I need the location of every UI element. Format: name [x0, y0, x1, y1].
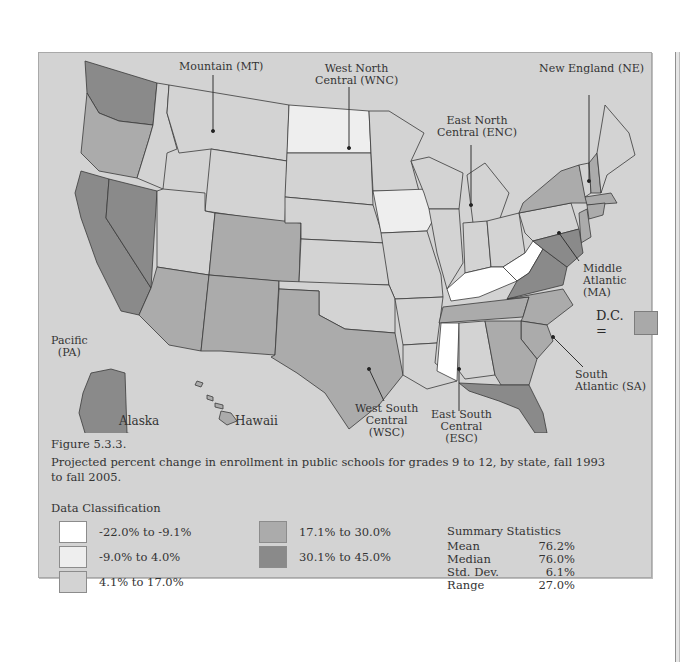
legend-item-5: 30.1% to 45.0%: [259, 546, 391, 568]
dc-label: D.C. =: [596, 308, 630, 338]
legend-swatch-4: [259, 521, 287, 543]
legend-swatch-2: [59, 546, 87, 568]
legend-item-3: 4.1% to 17.0%: [59, 571, 184, 593]
legend-swatch-3: [59, 571, 87, 593]
label-pa-line2: (PA): [51, 347, 88, 359]
dc-swatch: [634, 311, 658, 335]
label-ma-line3: (MA): [583, 287, 626, 299]
state-mn: [369, 111, 424, 191]
scrollbar-edge: [675, 52, 680, 662]
dc-indicator: D.C. =: [596, 308, 658, 338]
state-ct: [587, 203, 605, 219]
state-me: [597, 105, 635, 193]
label-ma: Middle Atlantic (MA): [583, 263, 626, 299]
summary-statistics: Summary Statistics Mean76.2% Median76.0%…: [447, 524, 575, 592]
label-pacific: Pacific (PA): [51, 335, 88, 359]
legend-label-3: 4.1% to 17.0%: [99, 575, 184, 589]
stat-row-range: Range27.0%: [447, 579, 575, 592]
legend-item-2: -9.0% to 4.0%: [59, 546, 180, 568]
legend-label-2: -9.0% to 4.0%: [99, 550, 180, 564]
legend-swatch-1: [59, 521, 87, 543]
label-mountain: Mountain (MT): [179, 61, 263, 73]
label-sa-line2: Atlantic (SA): [575, 381, 646, 393]
label-esc-line3: (ESC): [431, 433, 492, 445]
label-ne: New England (NE): [539, 63, 644, 75]
label-wsc-line3: (WSC): [355, 427, 418, 439]
figure-panel: Mountain (MT) West North Central (WNC) E…: [38, 52, 652, 578]
label-esc: East South Central (ESC): [431, 409, 492, 445]
state-in: [463, 221, 491, 273]
state-ks: [299, 239, 389, 285]
state-sd: [285, 153, 373, 205]
summary-title: Summary Statistics: [447, 524, 575, 538]
state-ar: [395, 297, 443, 345]
label-enc-line2: Central (ENC): [437, 127, 517, 139]
legend-item-4: 17.1% to 30.0%: [259, 521, 391, 543]
label-hawaii: Hawaii: [235, 415, 278, 427]
label-wsc: West South Central (WSC): [355, 403, 418, 439]
label-sa: South Atlantic (SA): [575, 369, 646, 393]
stat-label: Range: [447, 579, 484, 592]
state-mt: [167, 85, 289, 161]
state-ny: [519, 165, 587, 213]
label-wnc-line2: Central (WNC): [315, 75, 398, 87]
figure-caption: Projected percent change in enrollment i…: [51, 455, 611, 485]
label-alaska: Alaska: [119, 415, 159, 427]
stat-value: 27.0%: [538, 579, 575, 592]
legend-label-4: 17.1% to 30.0%: [299, 525, 391, 539]
state-nd: [287, 105, 371, 153]
state-wy: [205, 149, 287, 223]
us-choropleth-map: [39, 53, 651, 433]
legend-label-5: 30.1% to 45.0%: [299, 550, 391, 564]
label-enc: East North Central (ENC): [437, 115, 517, 139]
state-ms: [437, 323, 459, 381]
state-nm: [201, 275, 279, 355]
legend-label-1: -22.0% to -9.1%: [99, 525, 191, 539]
state-co: [209, 213, 301, 283]
state-mi: [467, 163, 509, 223]
legend-title: Data Classification: [51, 501, 161, 515]
legend-swatch-5: [259, 546, 287, 568]
figure-number: Figure 5.3.3.: [51, 437, 126, 451]
legend-item-1: -22.0% to -9.1%: [59, 521, 191, 543]
label-wnc: West North Central (WNC): [315, 63, 398, 87]
